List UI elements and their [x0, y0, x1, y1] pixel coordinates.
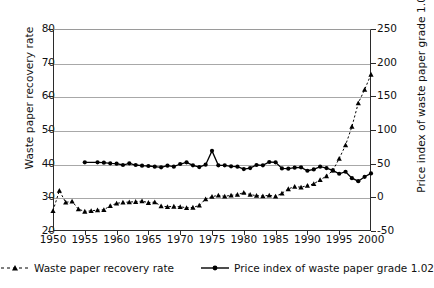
legend-triangle-icon	[0, 263, 30, 273]
data-point-marker	[242, 167, 246, 171]
data-point-marker	[363, 175, 367, 179]
series-recovery-rate	[50, 72, 373, 214]
chart-legend: Waste paper recovery ratePrice index of …	[0, 262, 434, 274]
data-point-marker	[305, 169, 309, 173]
data-point-marker	[274, 160, 278, 164]
data-point-marker	[343, 170, 347, 174]
legend-label: Waste paper recovery rate	[34, 262, 174, 274]
data-point-marker	[305, 183, 310, 188]
data-point-marker	[292, 184, 297, 189]
data-point-marker	[120, 200, 125, 205]
data-point-marker	[318, 177, 323, 182]
data-point-marker	[216, 163, 220, 167]
data-point-marker	[286, 167, 290, 171]
data-point-marker	[172, 165, 176, 169]
data-point-marker	[204, 163, 208, 167]
data-point-marker	[254, 163, 258, 167]
data-point-marker	[223, 163, 227, 167]
data-point-marker	[312, 167, 316, 171]
legend-item[interactable]: Waste paper recovery rate	[0, 262, 174, 274]
data-point-marker	[273, 194, 278, 199]
data-point-marker	[134, 163, 138, 167]
data-point-marker	[197, 203, 202, 208]
data-point-marker	[153, 165, 157, 169]
data-point-marker	[184, 160, 188, 164]
legend-circle-icon	[200, 263, 230, 273]
data-point-marker	[133, 199, 138, 204]
data-point-marker	[108, 203, 113, 208]
data-point-marker	[362, 87, 367, 92]
data-point-marker	[159, 165, 163, 169]
legend-item[interactable]: Price index of waste paper grade 1.02	[200, 262, 434, 274]
data-point-marker	[178, 162, 182, 166]
data-point-marker	[337, 156, 342, 161]
data-point-marker	[324, 174, 329, 179]
data-point-marker	[229, 164, 233, 168]
data-point-marker	[337, 172, 341, 176]
data-point-marker	[293, 166, 297, 170]
legend-label: Price index of waste paper grade 1.02	[234, 262, 434, 274]
data-point-marker	[108, 161, 112, 165]
data-point-marker	[115, 162, 119, 166]
data-point-marker	[146, 164, 150, 168]
data-point-marker	[369, 171, 373, 175]
chart-figure: Waste paper recovery rate Price index of…	[0, 0, 434, 288]
data-point-marker	[248, 166, 252, 170]
data-point-marker	[191, 163, 195, 167]
data-point-marker	[324, 166, 328, 170]
data-point-marker	[69, 199, 74, 204]
data-point-marker	[82, 209, 87, 214]
data-point-marker	[127, 161, 131, 165]
data-point-marker	[83, 160, 87, 164]
data-point-marker	[261, 163, 265, 167]
data-point-marker	[159, 203, 164, 208]
data-point-marker	[235, 165, 239, 169]
data-point-marker	[171, 204, 176, 209]
data-point-marker	[356, 179, 360, 183]
data-point-marker	[349, 124, 354, 129]
data-point-marker	[279, 191, 284, 196]
series-price-index	[83, 149, 373, 184]
data-point-marker	[241, 190, 246, 195]
series-line	[53, 74, 371, 211]
data-point-marker	[350, 176, 354, 180]
data-point-marker	[280, 166, 284, 170]
data-point-marker	[102, 161, 106, 165]
data-point-marker	[121, 163, 125, 167]
data-point-marker	[356, 100, 361, 105]
data-point-marker	[197, 165, 201, 169]
data-point-marker	[267, 160, 271, 164]
data-point-marker	[311, 181, 316, 186]
data-point-marker	[368, 72, 373, 77]
data-point-marker	[165, 164, 169, 168]
data-point-marker	[299, 165, 303, 169]
data-point-marker	[140, 164, 144, 168]
data-point-marker	[57, 188, 62, 193]
data-point-marker	[50, 208, 55, 213]
data-point-marker	[260, 193, 265, 198]
data-point-marker	[210, 149, 214, 153]
data-point-marker	[318, 165, 322, 169]
data-series-layer	[0, 0, 434, 288]
data-point-marker	[343, 143, 348, 148]
data-point-marker	[95, 160, 99, 164]
